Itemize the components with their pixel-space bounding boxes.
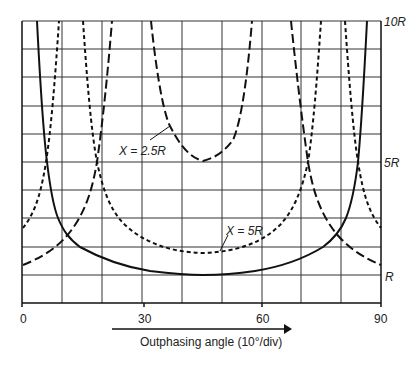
y-tick-10R: 10R xyxy=(384,15,406,29)
y-tick-R: R xyxy=(385,270,394,284)
chart: X = 2.5R X = 5R 10R 5R R 0 30 60 90 Outp… xyxy=(0,0,417,365)
y-tick-5R: 5R xyxy=(384,156,400,170)
label-x25r: X = 2.5R xyxy=(118,144,166,158)
series-x25r xyxy=(23,21,381,265)
x-tick-0: 0 xyxy=(20,312,27,326)
x-tick-60: 60 xyxy=(256,312,270,326)
x-axis-label: Outphasing angle (10°/div) xyxy=(140,335,282,349)
leader-x25r xyxy=(150,126,170,140)
x-tick-30: 30 xyxy=(138,312,152,326)
label-x5r: X = 5R xyxy=(225,224,263,238)
grid xyxy=(22,21,381,303)
x-tick-90: 90 xyxy=(374,312,388,326)
axes xyxy=(22,21,381,307)
